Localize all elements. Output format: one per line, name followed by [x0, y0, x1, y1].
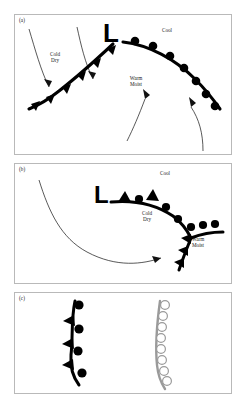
panel-c-symbol-graphics — [15, 293, 231, 393]
panel-b-front-graphics — [15, 164, 231, 283]
panel-c: (c) — [14, 292, 232, 394]
panel-a-warm-front — [123, 37, 220, 111]
panel-a-front-graphics — [15, 15, 231, 154]
panel-b-flow-arrow — [39, 180, 161, 263]
panel-b: (b) Cool Cold Dry Warm Moist L — [14, 163, 232, 284]
panel-a-flow-arrows — [29, 27, 203, 151]
panel-b-warm-front — [187, 220, 223, 238]
panel-a-cold-front — [29, 44, 116, 111]
panel-c-occluded-front-symbol — [62, 300, 87, 385]
panel-a: (a) Cold Dry Cool Warm Moist L — [14, 14, 232, 155]
figure-container: (a) Cold Dry Cool Warm Moist L — [0, 0, 246, 408]
panel-b-cold-front — [174, 234, 191, 270]
panel-c-gray-front-symbol — [156, 301, 171, 389]
panel-b-occluded-front — [111, 189, 191, 238]
